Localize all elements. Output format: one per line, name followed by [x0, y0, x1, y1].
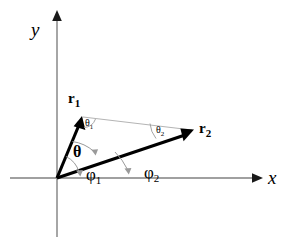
- vector-r1-label-text: r: [68, 90, 75, 106]
- angle-theta1-label: θ1: [85, 118, 93, 131]
- vector-r2-label: r2: [199, 121, 211, 139]
- arc-phi1-arrowhead: [76, 170, 83, 176]
- angle-phi2-label-subscript: 2: [154, 172, 160, 184]
- diagram-canvas: [0, 0, 289, 250]
- angle-phi1-label-text: φ: [86, 165, 96, 184]
- angle-theta-label-text: θ: [73, 143, 81, 160]
- angle-phi1-label-subscript: 1: [96, 174, 102, 186]
- angle-theta2-label: θ2: [156, 125, 164, 138]
- vector-angle-diagram: y x r1 r2 θ θ1 θ2 φ1 φ2: [0, 0, 289, 250]
- vector-r2-label-text: r: [199, 120, 206, 136]
- vector-r2-label-subscript: 2: [206, 127, 212, 139]
- angle-theta2-label-subscript: 2: [161, 130, 165, 138]
- angle-phi2-label: φ2: [144, 164, 159, 184]
- angle-theta-label: θ: [73, 144, 81, 160]
- y-axis-label: y: [31, 20, 39, 39]
- x-axis-arrowhead: [252, 173, 263, 183]
- vector-r1-label-subscript: 1: [75, 97, 81, 109]
- y-axis-arrowhead: [52, 10, 62, 21]
- vector-r2-arrowhead: [180, 128, 194, 141]
- angle-phi1-label: φ1: [86, 166, 101, 186]
- vector-r1-arrowhead: [74, 116, 86, 130]
- angle-theta1-label-subscript: 1: [90, 123, 94, 131]
- vector-r1-label: r1: [68, 91, 80, 109]
- angle-phi2-label-text: φ: [144, 163, 154, 182]
- arc-phi2-arrowhead: [125, 168, 132, 175]
- x-axis-label: x: [268, 168, 276, 187]
- arc-theta-arrowhead: [91, 149, 98, 155]
- helper-line-r1-to-r2: [83, 117, 192, 130]
